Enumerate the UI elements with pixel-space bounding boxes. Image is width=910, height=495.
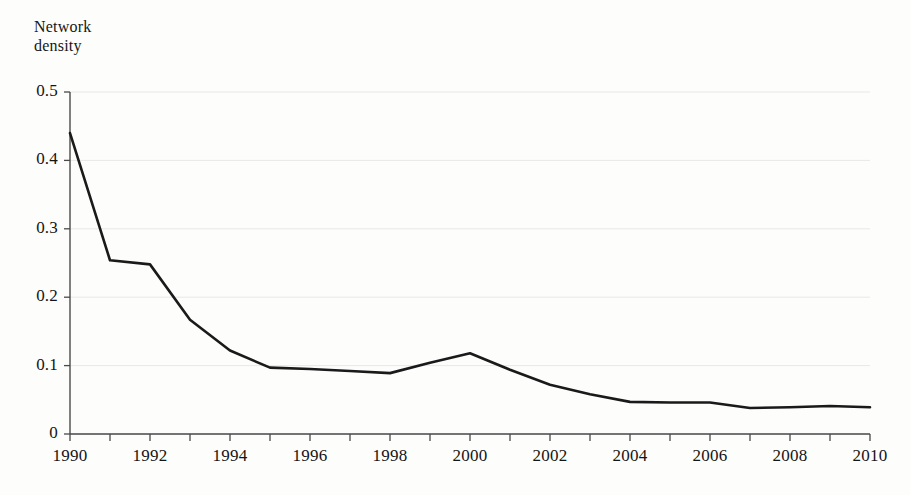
- x-axis-tick-label: 2004: [595, 446, 665, 466]
- y-axis-ticks: [64, 92, 70, 434]
- x-axis-tick-label: 1990: [35, 446, 105, 466]
- x-axis-ticks: [70, 434, 870, 441]
- x-axis-tick-label: 1996: [275, 446, 345, 466]
- y-axis-tick-label: 0.3: [6, 218, 58, 238]
- x-axis-tick-label: 1994: [195, 446, 265, 466]
- x-axis-tick-label: 1992: [115, 446, 185, 466]
- x-axis-tick-label: 2010: [835, 446, 905, 466]
- x-axis-tick-label: 2002: [515, 446, 585, 466]
- line-chart-plot: [0, 0, 910, 495]
- x-axis-tick-label: 2006: [675, 446, 745, 466]
- y-axis-tick-label: 0.2: [6, 286, 58, 306]
- x-axis-tick-label: 2008: [755, 446, 825, 466]
- x-axis-tick-label: 2000: [435, 446, 505, 466]
- y-axis-tick-label: 0.5: [6, 81, 58, 101]
- chart-page: Network density 00.10.20.30.40.5 1990199…: [0, 0, 910, 495]
- y-axis-tick-label: 0: [6, 423, 58, 443]
- gridlines: [70, 92, 870, 434]
- y-axis-tick-label: 0.4: [6, 149, 58, 169]
- data-series-line: [70, 133, 870, 408]
- y-axis-tick-label: 0.1: [6, 355, 58, 375]
- x-axis-tick-label: 1998: [355, 446, 425, 466]
